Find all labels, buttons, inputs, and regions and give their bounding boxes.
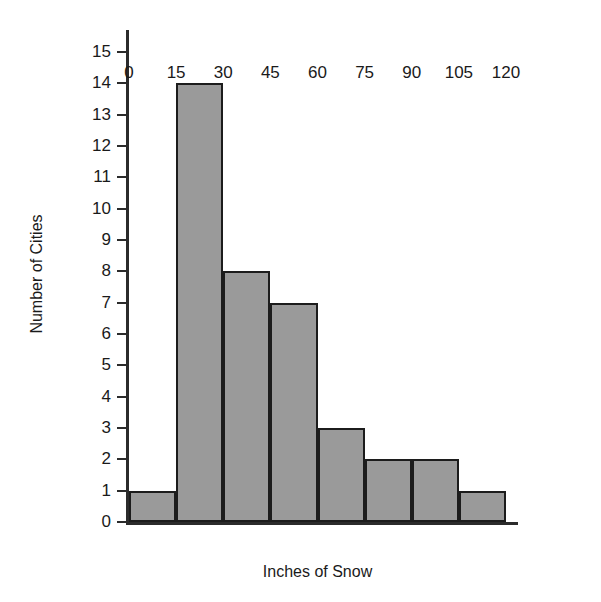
y-tick-label: 15 <box>71 43 111 60</box>
y-tick-label: 2 <box>71 450 111 467</box>
y-tick-label: 5 <box>71 356 111 373</box>
y-tick-mark <box>117 333 127 335</box>
y-tick-mark <box>117 176 127 178</box>
y-tick-mark <box>117 490 127 492</box>
y-tick-mark <box>117 208 127 210</box>
histogram-bar <box>223 271 270 522</box>
histogram-bar <box>270 303 317 522</box>
y-tick-mark <box>117 364 127 366</box>
histogram-figure: 1000 Snowfall Number of Cities Inches of… <box>0 0 601 602</box>
y-tick-mark <box>117 239 127 241</box>
histogram-bar <box>129 491 176 522</box>
y-tick-label: 7 <box>71 294 111 311</box>
y-tick-mark <box>117 427 127 429</box>
x-axis-spine <box>126 522 518 525</box>
y-tick-label: 6 <box>71 325 111 342</box>
y-tick-label: 9 <box>71 231 111 248</box>
y-tick-mark <box>117 145 127 147</box>
y-tick-mark <box>117 302 127 304</box>
x-axis-label: Inches of Snow <box>129 563 506 581</box>
histogram-bar <box>459 491 506 522</box>
y-tick-mark <box>117 114 127 116</box>
y-tick-mark <box>117 270 127 272</box>
y-tick-label: 4 <box>71 388 111 405</box>
y-tick-label: 13 <box>71 106 111 123</box>
chart-title: 1000 Snowfall <box>100 0 400 4</box>
y-axis-label: Number of Cities <box>28 174 46 374</box>
histogram-bar <box>412 459 459 522</box>
histogram-bar <box>318 428 365 522</box>
y-tick-mark <box>117 51 127 53</box>
y-tick-label: 1 <box>71 482 111 499</box>
y-tick-label: 12 <box>71 137 111 154</box>
y-axis-spine <box>126 30 129 525</box>
y-tick-mark <box>117 521 127 523</box>
histogram-bar <box>176 83 223 522</box>
y-tick-mark <box>117 458 127 460</box>
y-tick-mark <box>117 396 127 398</box>
y-tick-label: 8 <box>71 262 111 279</box>
y-tick-mark <box>117 82 127 84</box>
y-tick-label: 0 <box>71 513 111 530</box>
y-tick-label: 3 <box>71 419 111 436</box>
x-tick-label: 120 <box>476 64 536 81</box>
y-tick-label: 10 <box>71 200 111 217</box>
y-tick-label: 11 <box>71 168 111 185</box>
plot-area: 0123456789101112131415 01530456075901051… <box>129 52 506 522</box>
histogram-bar <box>365 459 412 522</box>
